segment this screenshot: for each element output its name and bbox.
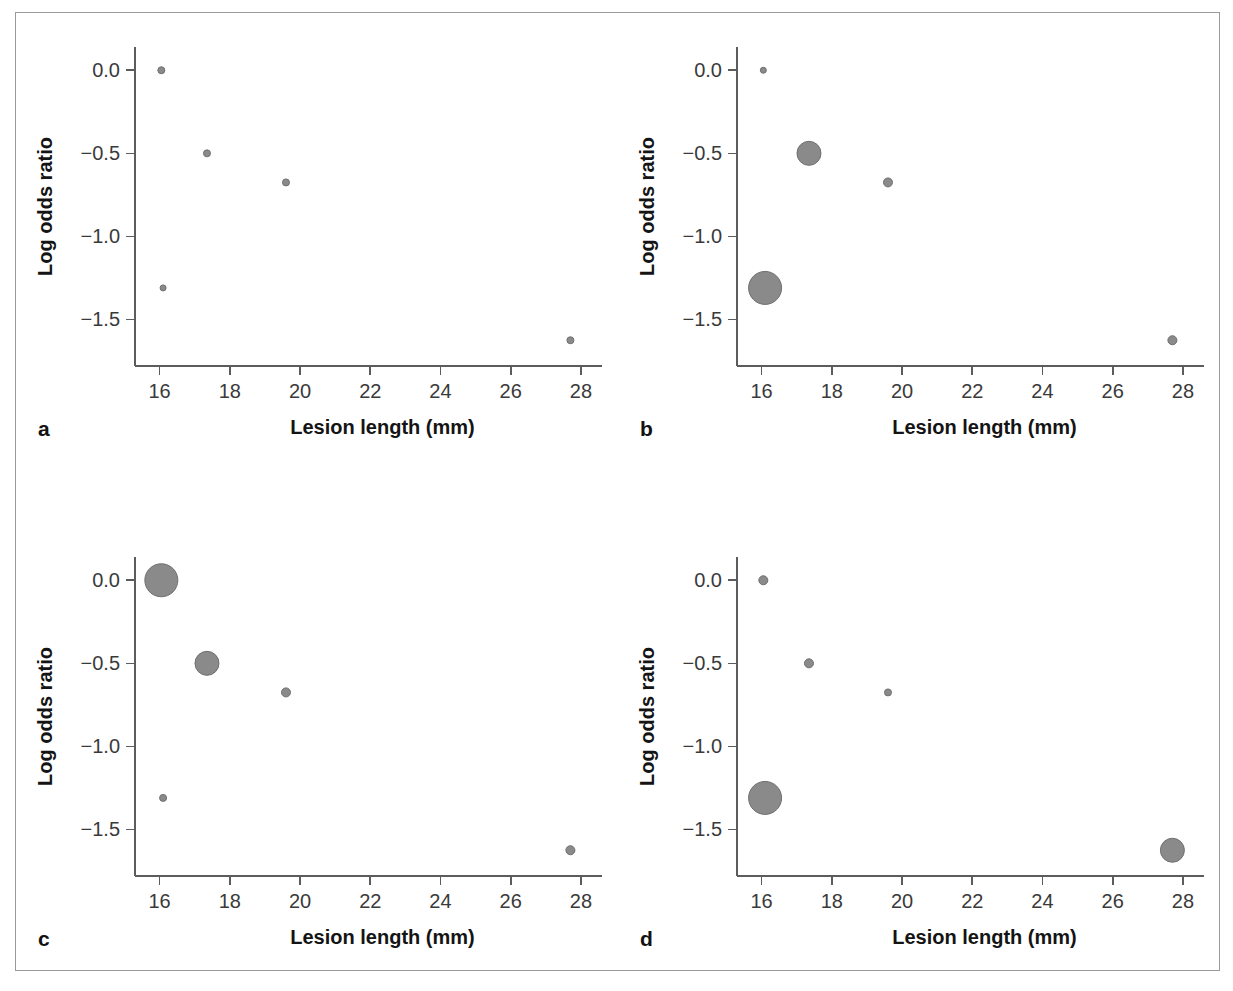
x-axis-title: Lesion length (mm) xyxy=(290,926,474,948)
data-point-bubble xyxy=(281,688,290,697)
y-tick-label: −0.5 xyxy=(81,652,120,674)
x-tick-label: 28 xyxy=(570,380,592,402)
y-axis-title: Log odds ratio xyxy=(636,647,658,786)
data-point-bubble xyxy=(160,285,166,291)
data-point-bubble xyxy=(797,141,821,165)
data-point-bubble xyxy=(282,179,289,186)
x-tick-label: 24 xyxy=(1031,890,1053,912)
x-tick-label: 28 xyxy=(570,890,592,912)
scatter-plot-d: 0.0−0.5−1.0−1.516182022242628Lesion leng… xyxy=(618,523,1220,991)
data-point-bubble xyxy=(884,689,891,696)
figure-frame: 0.0−0.5−1.0−1.516182022242628Lesion leng… xyxy=(15,12,1220,971)
panel-letter-c: c xyxy=(38,927,50,950)
x-tick-label: 22 xyxy=(961,890,983,912)
y-tick-label: −1.0 xyxy=(683,735,722,757)
y-tick-label: −1.5 xyxy=(81,818,120,840)
data-point-bubble xyxy=(195,651,219,675)
x-tick-label: 22 xyxy=(359,380,381,402)
y-tick-label: 0.0 xyxy=(92,569,120,591)
data-point-bubble xyxy=(203,150,210,157)
y-tick-label: 0.0 xyxy=(694,59,722,81)
x-tick-label: 20 xyxy=(891,890,913,912)
data-point-bubble xyxy=(160,794,167,801)
x-tick-label: 26 xyxy=(1102,890,1124,912)
panel-grid: 0.0−0.5−1.0−1.516182022242628Lesion leng… xyxy=(16,13,1219,970)
scatter-plot-b: 0.0−0.5−1.0−1.516182022242628Lesion leng… xyxy=(618,13,1220,492)
x-axis-title: Lesion length (mm) xyxy=(290,416,474,438)
data-point-bubble xyxy=(158,67,165,74)
y-tick-label: −1.5 xyxy=(683,308,722,330)
y-axis-title: Log odds ratio xyxy=(636,137,658,276)
x-tick-label: 28 xyxy=(1172,890,1194,912)
x-tick-label: 20 xyxy=(289,890,311,912)
data-point-bubble xyxy=(567,337,574,344)
y-tick-label: 0.0 xyxy=(92,59,120,81)
x-tick-label: 20 xyxy=(891,380,913,402)
y-axis-title: Log odds ratio xyxy=(34,137,56,276)
x-tick-label: 24 xyxy=(429,890,451,912)
panel-a: 0.0−0.5−1.0−1.516182022242628Lesion leng… xyxy=(16,13,618,492)
x-tick-label: 22 xyxy=(359,890,381,912)
data-point-bubble xyxy=(566,846,575,855)
x-tick-label: 26 xyxy=(1102,380,1124,402)
x-tick-label: 18 xyxy=(821,890,843,912)
scatter-plot-a: 0.0−0.5−1.0−1.516182022242628Lesion leng… xyxy=(16,13,618,492)
x-tick-label: 16 xyxy=(750,380,772,402)
y-tick-label: −0.5 xyxy=(683,142,722,164)
x-tick-label: 28 xyxy=(1172,380,1194,402)
y-tick-label: −1.5 xyxy=(81,308,120,330)
data-point-bubble xyxy=(804,659,813,668)
data-point-bubble xyxy=(1160,838,1184,862)
panel-c: 0.0−0.5−1.0−1.516182022242628Lesion leng… xyxy=(16,523,618,991)
x-tick-label: 16 xyxy=(148,890,170,912)
data-point-bubble xyxy=(759,576,768,585)
x-tick-label: 16 xyxy=(148,380,170,402)
data-point-bubble xyxy=(749,271,782,304)
x-tick-label: 24 xyxy=(429,380,451,402)
x-tick-label: 20 xyxy=(289,380,311,402)
panel-d: 0.0−0.5−1.0−1.516182022242628Lesion leng… xyxy=(618,523,1220,991)
x-tick-label: 24 xyxy=(1031,380,1053,402)
y-axis-title: Log odds ratio xyxy=(34,647,56,786)
y-tick-label: −1.0 xyxy=(683,225,722,247)
x-axis-title: Lesion length (mm) xyxy=(892,416,1076,438)
x-tick-label: 16 xyxy=(750,890,772,912)
y-tick-label: −0.5 xyxy=(683,652,722,674)
panel-letter-d: d xyxy=(640,927,653,950)
y-tick-label: −1.0 xyxy=(81,735,120,757)
x-axis-title: Lesion length (mm) xyxy=(892,926,1076,948)
data-point-bubble xyxy=(1168,336,1177,345)
scatter-plot-c: 0.0−0.5−1.0−1.516182022242628Lesion leng… xyxy=(16,523,618,991)
x-tick-label: 18 xyxy=(219,890,241,912)
panel-b: 0.0−0.5−1.0−1.516182022242628Lesion leng… xyxy=(618,13,1220,492)
panel-letter-b: b xyxy=(640,417,653,440)
x-tick-label: 26 xyxy=(500,890,522,912)
data-point-bubble xyxy=(749,781,782,814)
x-tick-label: 22 xyxy=(961,380,983,402)
data-point-bubble xyxy=(760,67,766,73)
data-point-bubble xyxy=(145,564,178,597)
y-tick-label: −1.0 xyxy=(81,225,120,247)
x-tick-label: 26 xyxy=(500,380,522,402)
panel-letter-a: a xyxy=(38,417,50,440)
y-tick-label: −0.5 xyxy=(81,142,120,164)
y-tick-label: 0.0 xyxy=(694,569,722,591)
x-tick-label: 18 xyxy=(219,380,241,402)
x-tick-label: 18 xyxy=(821,380,843,402)
y-tick-label: −1.5 xyxy=(683,818,722,840)
data-point-bubble xyxy=(883,178,892,187)
